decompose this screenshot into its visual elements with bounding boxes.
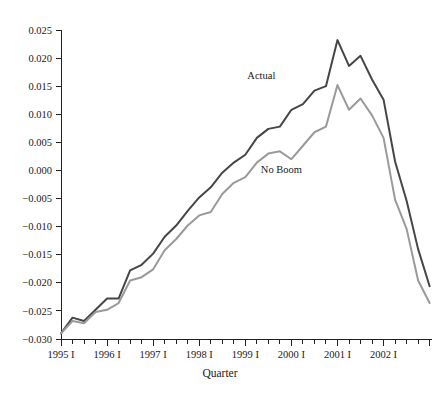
y-tick-label: 0.000 (28, 165, 52, 176)
y-tick-label: 0.025 (28, 25, 52, 36)
y-tick-label: 0.020 (28, 53, 52, 64)
x-tick-label: 2002 I (370, 349, 398, 360)
x-tick-label: 1997 I (140, 349, 168, 360)
x-tick-label: 1995 I (47, 349, 75, 360)
y-tick-label: −0.015 (22, 249, 52, 260)
x-tick-label: 1998 I (186, 349, 214, 360)
x-tick-label: 1999 I (232, 349, 260, 360)
y-tick-label: −0.020 (22, 277, 52, 288)
series-line-no-boom (61, 85, 430, 333)
y-tick-label: −0.025 (22, 306, 52, 317)
y-tick-label: 0.005 (28, 137, 52, 148)
series-line-actual (61, 40, 430, 333)
x-tick-label: 1996 I (94, 349, 122, 360)
chart-figure: 1995 I1996 I1997 I1998 I1999 I2000 I2001… (0, 0, 441, 394)
line-chart: 1995 I1996 I1997 I1998 I1999 I2000 I2001… (0, 0, 441, 394)
series-label-actual: Actual (247, 70, 275, 81)
x-axis-tick-labels: 1995 I1996 I1997 I1998 I1999 I2000 I2001… (47, 349, 397, 360)
y-axis-tick-labels: 0.0250.0200.0150.0100.0050.000−0.005−0.0… (22, 25, 52, 345)
data-series-group (61, 40, 430, 333)
y-tick-label: 0.015 (28, 81, 52, 92)
y-tick-label: −0.030 (22, 334, 52, 345)
x-axis-ticks (61, 339, 430, 346)
y-tick-label: 0.010 (28, 109, 52, 120)
series-label-no-boom: No Boom (261, 164, 302, 175)
x-axis-title: Quarter (202, 367, 237, 379)
x-tick-label: 2000 I (278, 349, 306, 360)
y-tick-label: −0.005 (22, 193, 52, 204)
y-tick-label: −0.010 (22, 221, 52, 232)
x-tick-label: 2001 I (324, 349, 352, 360)
y-axis-ticks (56, 30, 61, 339)
